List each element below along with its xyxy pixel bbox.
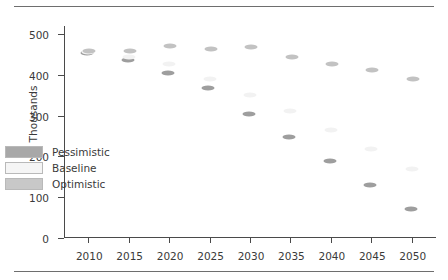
data-point <box>83 49 96 54</box>
x-tick-mark: 2035 <box>290 238 291 243</box>
x-tick-mark: 2045 <box>371 238 372 243</box>
data-point <box>163 61 176 66</box>
x-tick-mark: 2025 <box>210 238 211 243</box>
x-tick-mark: 2020 <box>169 238 170 243</box>
legend-item-optimistic[interactable]: Optimistic <box>5 176 110 192</box>
y-tick-label: 400 <box>29 70 49 82</box>
y-tick-label: 500 <box>29 29 49 41</box>
legend-swatch <box>5 162 43 174</box>
data-point <box>405 166 418 171</box>
y-tick-mark: 0 <box>58 238 64 239</box>
x-tick-mark: 2050 <box>412 238 413 243</box>
y-tick-mark: 400 <box>58 75 64 76</box>
x-tick-mark: 2040 <box>331 238 332 243</box>
y-tick-label: 0 <box>42 233 49 245</box>
data-point <box>325 61 338 66</box>
data-point <box>404 207 417 212</box>
x-tick-label: 2010 <box>76 250 103 262</box>
y-tick-label: 300 <box>29 111 49 123</box>
legend-label: Baseline <box>52 162 97 174</box>
data-point <box>245 45 258 50</box>
data-point <box>285 55 298 60</box>
data-point <box>323 158 336 163</box>
legend-label: Optimistic <box>52 178 105 190</box>
data-point <box>324 127 337 132</box>
data-point <box>204 47 217 52</box>
y-tick-mark: 300 <box>58 116 64 117</box>
data-point <box>284 109 297 114</box>
plot-area: 0100200300400500 20102015202020252030203… <box>64 26 436 238</box>
legend-label: Pessimistic <box>52 146 110 158</box>
x-tick-label: 2025 <box>197 250 224 262</box>
legend-item-baseline[interactable]: Baseline <box>5 160 110 176</box>
data-point <box>203 77 216 82</box>
data-point <box>123 49 136 54</box>
data-point <box>242 112 255 117</box>
x-tick-label: 2040 <box>318 250 345 262</box>
data-point <box>366 68 379 73</box>
y-tick-mark: 100 <box>58 197 64 198</box>
x-tick-mark: 2010 <box>88 238 89 243</box>
x-tick-label: 2050 <box>399 250 426 262</box>
x-tick-label: 2020 <box>157 250 184 262</box>
y-tick-mark: 500 <box>58 34 64 35</box>
legend-swatch <box>5 178 43 190</box>
data-point <box>283 134 296 139</box>
data-point <box>202 86 215 91</box>
data-point <box>162 70 175 75</box>
x-tick-mark: 2015 <box>129 238 130 243</box>
x-tick-label: 2035 <box>278 250 305 262</box>
chart-legend: PessimisticBaselineOptimistic <box>1 140 116 196</box>
data-point <box>364 182 377 187</box>
legend-swatch <box>5 146 43 158</box>
x-tick-label: 2030 <box>238 250 265 262</box>
data-point <box>164 44 177 49</box>
data-point <box>406 76 419 81</box>
scatter-chart-figure: Thousands 0100200300400500 2010201520202… <box>0 0 448 280</box>
data-point <box>122 55 135 60</box>
data-point <box>365 147 378 152</box>
y-axis-line <box>64 26 65 238</box>
x-tick-mark: 2030 <box>250 238 251 243</box>
data-point <box>244 93 257 98</box>
x-tick-label: 2045 <box>359 250 386 262</box>
legend-item-pessimistic[interactable]: Pessimistic <box>5 144 110 160</box>
x-tick-label: 2015 <box>116 250 143 262</box>
